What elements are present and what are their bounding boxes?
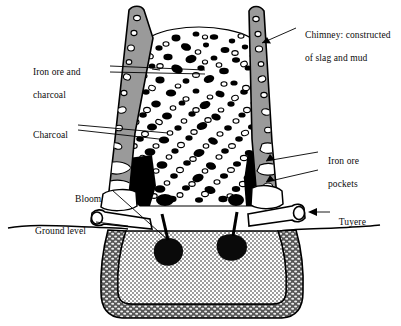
label-chimney-line2: of slag and mud <box>305 53 367 63</box>
arrowhead-tuyere <box>308 208 317 216</box>
label-iron-ore-pockets-line2: pockets <box>328 179 358 189</box>
label-iron-ore-pockets: Iron ore pockets <box>323 144 359 190</box>
label-charcoal: Charcoal <box>28 118 68 141</box>
label-iron-ore-and-charcoal-line2: charcoal <box>33 90 66 100</box>
tuyere-left <box>91 210 152 229</box>
label-ground-level-line1: Ground level <box>35 226 86 236</box>
label-tuyere-line1: Tuyere <box>339 217 366 227</box>
label-charcoal-line1: Charcoal <box>33 130 68 140</box>
label-tuyere: Tuyere <box>334 205 366 228</box>
furnace-pit <box>101 230 303 318</box>
label-ground-level: Ground level <box>30 214 86 237</box>
label-iron-ore-pockets-line1: Iron ore <box>328 156 359 166</box>
pit-cavity <box>118 231 286 304</box>
label-iron-ore-and-charcoal-line1: Iron ore and <box>33 67 81 77</box>
label-chimney: Chimney: constructed of slag and mud <box>300 18 391 64</box>
label-iron-ore-and-charcoal: Iron ore and charcoal <box>28 55 81 101</box>
label-bloom-line1: Bloom <box>75 194 101 204</box>
chimney-base-right <box>251 186 283 209</box>
bloom-right <box>217 234 247 261</box>
figure-canvas: Chimney: constructed of slag and mud Iro… <box>0 0 401 326</box>
label-chimney-line1: Chimney: constructed <box>305 30 391 40</box>
label-bloom: Bloom <box>70 182 101 205</box>
